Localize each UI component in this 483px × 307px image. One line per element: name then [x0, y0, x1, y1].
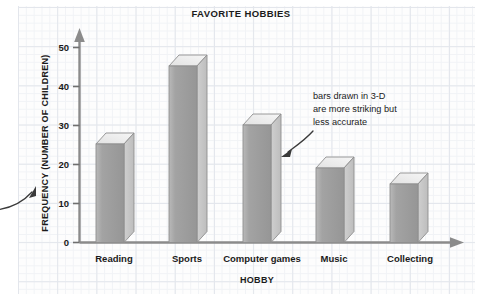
- bar-side-face: [344, 157, 354, 243]
- bar-collecting: [390, 173, 428, 243]
- y-tick-label-30: 30: [58, 120, 69, 131]
- y-axis: [74, 28, 85, 243]
- bar-side-face: [418, 173, 428, 243]
- chart-title: FAVORITE HOBBIES: [191, 8, 290, 19]
- bar-front-face: [243, 125, 271, 243]
- bar-front-face: [96, 144, 124, 243]
- callout-arrow-icon: [281, 131, 313, 157]
- bar-side-face: [271, 114, 281, 243]
- chart-figure: FAVORITE HOBBIES 0 10 20 30 40 50 FREQUE…: [0, 0, 483, 307]
- bar-front-face: [316, 168, 344, 243]
- bar-side-face: [124, 133, 134, 243]
- bar-front-face: [169, 66, 197, 243]
- x-category-label-computer-games: Computer games: [223, 253, 301, 264]
- x-category-label-collecting: Collecting: [387, 253, 433, 264]
- bar-music: [316, 157, 354, 243]
- annotation-three-d-note: bars drawn in 3-D are more striking but …: [313, 91, 397, 127]
- y-tick-label-0: 0: [64, 237, 69, 248]
- x-category-label-sports: Sports: [172, 253, 202, 264]
- annotation-line-2: are more striking but: [313, 104, 397, 114]
- annotation-line-1: bars drawn in 3-D: [313, 91, 386, 101]
- x-axis-title: HOBBY: [240, 275, 274, 285]
- bar-front-face: [390, 184, 418, 243]
- x-category-label-reading: Reading: [95, 253, 133, 264]
- y-tick-label-10: 10: [58, 198, 69, 209]
- x-category-label-music: Music: [321, 253, 348, 264]
- y-axis-title: FREQUENCY (NUMBER OF CHILDREN): [40, 54, 50, 231]
- bar-computer-games: [243, 114, 281, 243]
- y-tick-label-50: 50: [58, 42, 69, 53]
- bar-sports: [169, 55, 207, 243]
- annotation-line-3: less accurate: [313, 117, 367, 127]
- margin-arrow-icon: [0, 186, 36, 210]
- y-tick-label-20: 20: [58, 159, 69, 170]
- y-tick-label-40: 40: [58, 81, 69, 92]
- bar-side-face: [197, 55, 207, 243]
- arrow-up-icon: [74, 28, 85, 42]
- arrow-right-icon: [450, 237, 464, 248]
- bar-chart-plot: FAVORITE HOBBIES 0 10 20 30 40 50 FREQUE…: [0, 0, 483, 307]
- bar-reading: [96, 133, 134, 243]
